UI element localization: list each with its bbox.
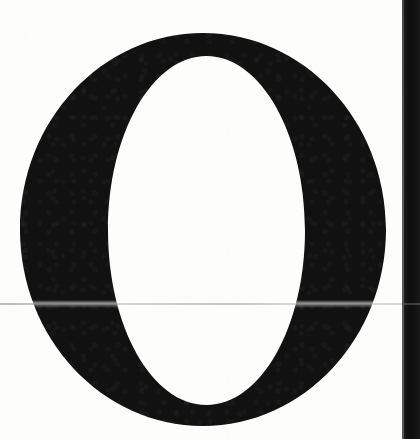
glyph-outline-path [20,33,386,426]
scanned-page: Scanned page fragment showing a large se… [0,0,420,439]
dropcap-letter-o [0,0,420,439]
right-edge-dark-band [404,0,420,439]
